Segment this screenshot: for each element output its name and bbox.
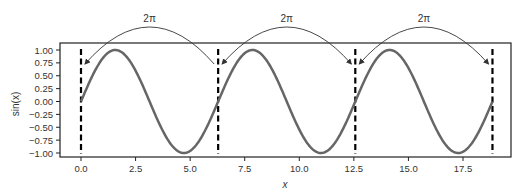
period-label: 2π [280, 13, 293, 24]
x-tick-label: 7.5 [238, 163, 251, 174]
y-tick-label: 1.00 [35, 45, 54, 56]
period-arrow [85, 27, 214, 64]
y-tick-label: 0.75 [35, 57, 54, 68]
period-annotations: 2π2π2π [85, 13, 488, 64]
x-tick-label: 10.0 [290, 163, 309, 174]
y-tick-label: 0.00 [35, 96, 54, 107]
sine-line [81, 50, 492, 153]
y-tick-label: −0.50 [29, 122, 53, 133]
y-tick-label: −0.75 [29, 135, 53, 146]
x-tick-label: 17.5 [454, 163, 473, 174]
period-label: 2π [418, 13, 431, 24]
sine-curve [81, 50, 492, 153]
period-arrow [359, 27, 488, 64]
period-label: 2π [143, 13, 156, 24]
y-tick-label: −0.25 [29, 109, 53, 120]
period-arrow [222, 27, 351, 64]
y-axis-label: sin(x) [10, 92, 21, 116]
y-axis: 1.000.750.500.250.00−0.25−0.50−0.75−1.00 [29, 45, 60, 159]
x-tick-label: 2.5 [129, 163, 142, 174]
x-tick-label: 15.0 [399, 163, 418, 174]
x-axis-label: x [282, 179, 289, 190]
sine-period-chart: 1.000.750.500.250.00−0.25−0.50−0.75−1.00… [0, 0, 523, 195]
x-tick-label: 5.0 [184, 163, 197, 174]
x-tick-label: 0.0 [74, 163, 87, 174]
x-tick-label: 12.5 [345, 163, 364, 174]
y-tick-label: −1.00 [29, 148, 53, 159]
y-tick-label: 0.25 [35, 83, 54, 94]
x-axis: 0.02.55.07.510.012.515.017.5 [74, 157, 472, 174]
y-tick-label: 0.50 [35, 70, 54, 81]
